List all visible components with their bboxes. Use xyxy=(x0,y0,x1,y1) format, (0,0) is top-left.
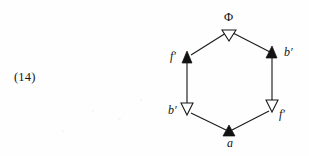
edge-upper-left-to-top xyxy=(191,33,226,55)
arrow-to-upper-left-icon xyxy=(182,51,192,63)
arrow-to-phi-top-icon xyxy=(222,30,236,41)
figure-root: (14) Φ f′ b′ b′ f′ a xyxy=(0,0,309,156)
edge-top-to-upper-right xyxy=(233,33,270,52)
edge-bottom-to-lower-right xyxy=(232,111,269,130)
vertex-label-upper-right: b′ xyxy=(284,46,293,58)
arrow-to-lower-right-icon xyxy=(266,100,278,112)
vertex-label-bottom: a xyxy=(227,137,233,149)
vertex-label-lower-right: f′ xyxy=(279,108,285,120)
vertex-label-upper-left: f′ xyxy=(170,50,176,62)
arrow-to-bottom-vertex-icon xyxy=(223,125,235,136)
arrow-to-upper-right-icon xyxy=(266,46,277,58)
vertex-label-lower-left: b′ xyxy=(168,104,177,116)
vertex-label-top-phi: Φ xyxy=(224,11,233,24)
hexagon-diagram xyxy=(0,0,309,156)
edge-bottom-to-lower-left xyxy=(191,113,226,130)
